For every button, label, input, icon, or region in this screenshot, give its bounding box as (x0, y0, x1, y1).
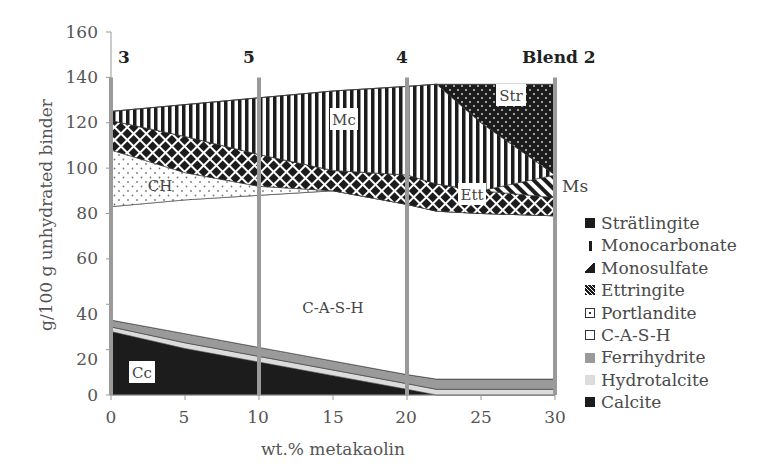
y-axis-title: g/100 g unhydrated binder (36, 98, 56, 331)
legend-label: Ettringite (601, 279, 685, 301)
stratlingite-swatch-icon (585, 218, 595, 228)
marker-label-5: 5 (243, 47, 255, 67)
x-tick-5: 5 (179, 407, 190, 427)
legend-item-monosulfate: Monosulfate (585, 257, 737, 279)
cash-label: C-A-S-H (302, 299, 363, 317)
ettringite-swatch-icon (585, 285, 595, 295)
y-tick-60: 60 (76, 248, 98, 268)
x-tick-0: 0 (106, 407, 117, 427)
y-tick-160: 160 (66, 22, 98, 42)
x-tick-10: 10 (247, 407, 269, 427)
legend-item-ettringite: Ettringite (585, 279, 737, 301)
monosulfate-swatch-icon (585, 263, 595, 273)
calcite-swatch-icon (585, 397, 595, 407)
portlandite-swatch-icon (585, 308, 595, 318)
legend-item-ferrihydrite: Ferrihydrite (585, 346, 737, 368)
y-tick-120: 120 (66, 112, 98, 132)
legend-label: Hydrotalcite (601, 369, 709, 391)
cc-label: Cc (132, 364, 152, 382)
ett-label: Ett (460, 186, 483, 204)
legend-label: C-A-S-H (601, 324, 671, 346)
x-tick-25: 25 (470, 407, 492, 427)
marker-label-3: 3 (118, 47, 130, 67)
legend-item-cash: C-A-S-H (585, 324, 737, 346)
legend-label: Monosulfate (601, 257, 708, 279)
legend-label: Portlandite (601, 302, 697, 324)
y-tick-100: 100 (66, 158, 98, 178)
mc-label: Mc (332, 111, 356, 129)
ms-label: Ms (562, 176, 588, 196)
legend: Strätlingite Monocarbonate Monosulfate E… (585, 212, 737, 414)
x-tick-20: 20 (395, 407, 417, 427)
legend-label: Calcite (601, 391, 661, 413)
y-tick-40: 40 (76, 304, 98, 324)
legend-label: Strätlingite (601, 212, 700, 234)
marker-label-4: 4 (396, 47, 408, 67)
x-axis-title: wt.% metakaolin (261, 439, 405, 459)
str-label: Str (499, 87, 523, 105)
ferrihydrite-swatch-icon (585, 353, 595, 363)
legend-item-hydrotalcite: Hydrotalcite (585, 369, 737, 391)
legend-label: Monocarbonate (601, 234, 737, 256)
monocarbonate-swatch-icon (585, 241, 595, 251)
x-tick-15: 15 (322, 407, 344, 427)
cash-swatch-icon (585, 330, 595, 340)
legend-item-calcite: Calcite (585, 391, 737, 413)
stacked-areas (111, 84, 555, 395)
y-tick-labels: 0 20 40 60 80 100 120 140 160 (66, 22, 98, 405)
ch-label: CH (148, 177, 173, 195)
legend-item-stratlingite: Strätlingite (585, 212, 737, 234)
legend-label: Ferrihydrite (601, 346, 706, 368)
y-tick-140: 140 (66, 67, 98, 87)
x-tick-30: 30 (544, 407, 566, 427)
legend-item-portlandite: Portlandite (585, 302, 737, 324)
y-tick-20: 20 (76, 349, 98, 369)
legend-item-monocarbonate: Monocarbonate (585, 234, 737, 256)
hydrotalcite-swatch-icon (585, 375, 595, 385)
marker-label-blend2: Blend 2 (522, 47, 596, 67)
x-tick-labels: 0 5 10 15 20 25 30 (106, 407, 566, 427)
y-tick-80: 80 (76, 203, 98, 223)
y-tick-0: 0 (87, 385, 98, 405)
